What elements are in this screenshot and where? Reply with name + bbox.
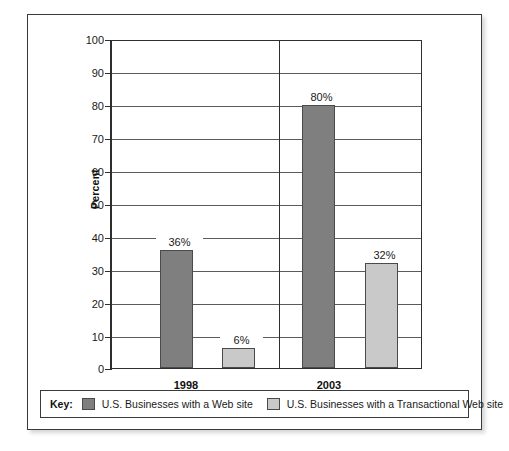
y-tick-label-90: 90 (78, 68, 104, 79)
y-tick-label-40: 40 (78, 233, 104, 244)
bar-value-2003-web-site: 80% (298, 91, 345, 103)
y-tick-label-70: 70 (78, 134, 104, 145)
bar-1998-web-site[interactable] (160, 250, 193, 368)
bar-2003-web-site[interactable] (302, 105, 335, 368)
gridline-80 (112, 106, 421, 107)
y-tick-label-50: 50 (78, 200, 104, 211)
y-tick-label-10: 10 (78, 332, 104, 343)
y-tick-label-20: 20 (78, 299, 104, 310)
legend-entry-web-site[interactable]: U.S. Businesses with a Web site (82, 398, 253, 410)
gridline-70 (112, 139, 421, 140)
y-tick-label-60: 60 (78, 167, 104, 178)
legend-swatch-transactional-web-site (267, 398, 280, 410)
legend-entry-transactional-web-site[interactable]: U.S. Businesses with a Transactional Web… (267, 398, 503, 410)
group-divider-line (279, 41, 280, 368)
bar-1998-transactional-web-site[interactable] (222, 348, 255, 368)
bar-value-2003-transactional-web-site: 32% (361, 249, 408, 261)
legend-label-web-site: U.S. Businesses with a Web site (102, 398, 253, 410)
y-tick-label-100: 100 (78, 35, 104, 46)
y-tick-mark-0 (105, 369, 111, 370)
plot-area: 36% 6% 80% 32% (111, 40, 422, 369)
legend-label-transactional-web-site: U.S. Businesses with a Transactional Web… (287, 398, 503, 410)
legend-swatch-web-site (82, 398, 95, 410)
bar-value-1998-web-site: 36% (156, 236, 203, 248)
bar-2003-transactional-web-site[interactable] (365, 263, 398, 368)
chart-figure-frame: Percent 100 90 80 70 60 50 40 30 20 10 0 (27, 14, 482, 430)
y-tick-label-80: 80 (78, 101, 104, 112)
legend-title: Key: (50, 398, 73, 410)
bar-value-1998-transactional-web-site: 6% (220, 334, 263, 346)
gridline-50 (112, 205, 421, 206)
bar-chart: Percent 100 90 80 70 60 50 40 30 20 10 0 (28, 15, 483, 385)
gridline-90 (112, 73, 421, 74)
chart-legend: Key: U.S. Businesses with a Web site U.S… (40, 390, 469, 418)
y-tick-label-0: 0 (78, 364, 104, 375)
y-tick-label-30: 30 (78, 266, 104, 277)
gridline-60 (112, 172, 421, 173)
